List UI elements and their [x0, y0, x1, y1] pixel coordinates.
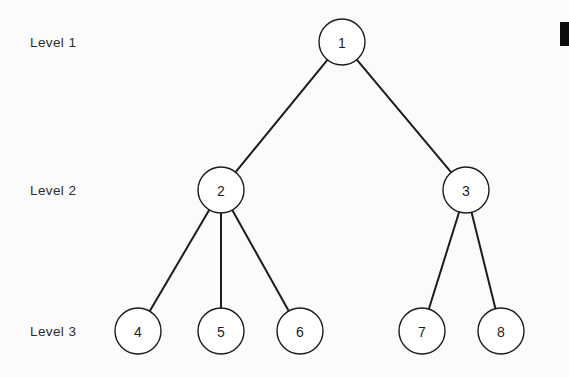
tree-node-2[interactable]: 2 [198, 167, 244, 213]
tree-edge-3-7 [429, 212, 459, 309]
tree-node-label-6: 6 [296, 324, 304, 340]
tree-diagram-svg: 12345678 Level 1Level 2Level 3 [0, 0, 569, 377]
tree-node-label-7: 7 [418, 324, 426, 340]
tree-node-label-1: 1 [338, 35, 346, 51]
tree-node-4[interactable]: 4 [115, 308, 161, 354]
tree-node-label-8: 8 [497, 324, 505, 340]
tree-node-8[interactable]: 8 [478, 308, 524, 354]
corner-marks-group [560, 22, 569, 46]
tree-node-label-4: 4 [134, 324, 142, 340]
tree-node-7[interactable]: 7 [399, 308, 445, 354]
tree-node-1[interactable]: 1 [319, 19, 365, 65]
tree-node-6[interactable]: 6 [277, 308, 323, 354]
tree-node-label-2: 2 [217, 183, 225, 199]
tree-edge-3-8 [472, 212, 496, 308]
level-label-1: Level 1 [30, 35, 76, 50]
tree-edge-1-2 [236, 60, 328, 172]
tree-node-label-5: 5 [217, 324, 225, 340]
tree-node-3[interactable]: 3 [443, 167, 489, 213]
tree-node-5[interactable]: 5 [198, 308, 244, 354]
tree-edge-2-4 [150, 210, 210, 311]
page-edge-mark [560, 22, 569, 46]
tree-node-label-3: 3 [462, 183, 470, 199]
tree-edge-1-3 [357, 60, 451, 173]
tree-diagram-canvas: 12345678 Level 1Level 2Level 3 [0, 0, 569, 377]
level-labels-group: Level 1Level 2Level 3 [30, 35, 76, 339]
tree-edge-2-6 [232, 210, 289, 311]
level-label-2: Level 2 [30, 183, 76, 198]
level-label-3: Level 3 [30, 324, 76, 339]
